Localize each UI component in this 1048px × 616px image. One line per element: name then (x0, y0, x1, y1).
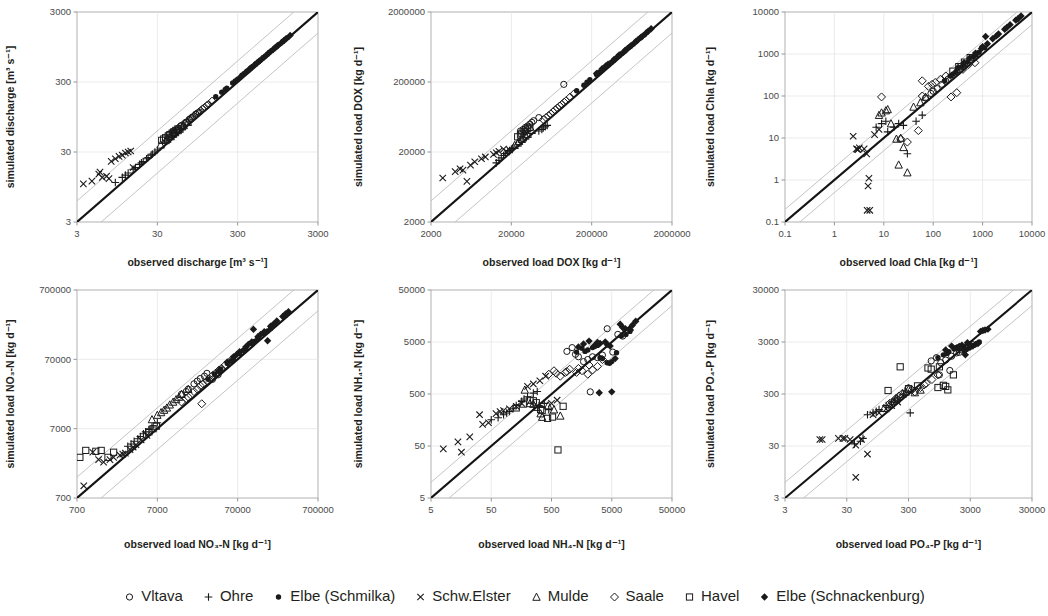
svg-text:observed discharge [m³ s⁻¹]: observed discharge [m³ s⁻¹] (127, 256, 267, 268)
svg-text:3000: 3000 (307, 228, 328, 239)
svg-text:20000: 20000 (498, 228, 524, 239)
svg-text:2000000: 2000000 (654, 228, 691, 239)
panel-po4p: 330300300030000330300300030000observed l… (700, 276, 1048, 554)
svg-text:observed load PO₄-P [kg d⁻¹]: observed load PO₄-P [kg d⁻¹] (836, 538, 982, 550)
panel-no3n: 700700070000700000700700070000700000obse… (0, 276, 340, 554)
svg-text:10: 10 (768, 132, 779, 143)
svg-text:700: 700 (55, 492, 71, 503)
svg-text:500: 500 (409, 388, 425, 399)
svg-text:700: 700 (69, 504, 85, 515)
svg-text:5000: 5000 (404, 336, 425, 347)
svg-text:7000: 7000 (147, 504, 168, 515)
svg-text:30: 30 (841, 504, 852, 515)
svg-text:30: 30 (60, 146, 71, 157)
svg-text:50000: 50000 (659, 504, 685, 515)
panel-discharge: 33030030003303003000observed discharge [… (0, 0, 340, 272)
svg-text:50: 50 (414, 440, 425, 451)
svg-text:20000: 20000 (399, 146, 425, 157)
open-triangle-icon (530, 589, 543, 602)
svg-text:3: 3 (74, 228, 79, 239)
legend-item-label: Ohre (220, 587, 253, 604)
svg-text:simulated load NH₄-N [kg d⁻¹]: simulated load NH₄-N [kg d⁻¹] (352, 320, 364, 469)
svg-text:100: 100 (925, 228, 941, 239)
svg-text:700000: 700000 (39, 284, 71, 295)
svg-text:70000: 70000 (45, 354, 71, 365)
legend-item-label: Havel (701, 587, 739, 604)
svg-text:observed load Chla [kg d⁻¹]: observed load Chla [kg d⁻¹] (840, 256, 978, 268)
panel-nh4n: 550500500050000550500500050000observed l… (348, 276, 694, 554)
svg-text:200000: 200000 (576, 228, 608, 239)
open-circle-icon (123, 589, 136, 602)
panel-dox: 2000200002000002000000200020000200000200… (348, 0, 694, 272)
svg-text:1000: 1000 (972, 228, 993, 239)
svg-text:3: 3 (66, 216, 71, 227)
svg-text:10000: 10000 (1019, 228, 1045, 239)
svg-text:0.1: 0.1 (778, 228, 791, 239)
svg-text:7000: 7000 (50, 423, 71, 434)
svg-text:1: 1 (832, 228, 837, 239)
svg-text:observed load NO₃-N [kg d⁻¹]: observed load NO₃-N [kg d⁻¹] (124, 538, 271, 550)
legend: VltavaOhreElbe (Schmilka)Schw.ElsterMuld… (0, 575, 1048, 616)
legend-item-label: Elbe (Schmilka) (290, 587, 395, 604)
svg-text:3: 3 (782, 504, 787, 515)
svg-text:5000: 5000 (601, 504, 622, 515)
svg-text:50: 50 (486, 504, 497, 515)
legend-item: Mulde (530, 587, 589, 604)
legend-item-label: Mulde (548, 587, 589, 604)
svg-text:30000: 30000 (753, 284, 779, 295)
svg-text:300: 300 (901, 504, 917, 515)
svg-text:30: 30 (152, 228, 163, 239)
legend-item: Elbe (Schnackenburg) (758, 587, 924, 604)
svg-text:3000: 3000 (50, 6, 71, 17)
svg-text:10: 10 (879, 228, 890, 239)
svg-text:3: 3 (774, 492, 779, 503)
legend-item: Schw.Elster (414, 587, 510, 604)
svg-text:2000: 2000 (420, 228, 441, 239)
open-diamond-icon (608, 589, 621, 602)
svg-text:observed load NH₄-N [kg d⁻¹]: observed load NH₄-N [kg d⁻¹] (478, 538, 624, 550)
svg-text:50000: 50000 (399, 284, 425, 295)
svg-text:30: 30 (768, 440, 779, 451)
svg-text:5: 5 (428, 504, 433, 515)
open-square-icon (683, 589, 696, 602)
svg-text:700000: 700000 (302, 504, 334, 515)
filled-circle-icon (272, 589, 285, 602)
legend-item-label: Elbe (Schnackenburg) (776, 587, 924, 604)
svg-text:10000: 10000 (753, 6, 779, 17)
svg-text:3000: 3000 (960, 504, 981, 515)
svg-text:500: 500 (544, 504, 560, 515)
svg-text:1000: 1000 (758, 48, 779, 59)
svg-text:simulated load Chla [kg d⁻¹]: simulated load Chla [kg d⁻¹] (704, 47, 716, 187)
legend-item: Ohre (202, 587, 253, 604)
svg-text:70000: 70000 (224, 504, 250, 515)
legend-item: Elbe (Schmilka) (272, 587, 395, 604)
svg-text:simulated load NO₃-N [kg d⁻¹]: simulated load NO₃-N [kg d⁻¹] (4, 319, 16, 468)
filled-diamond-icon (758, 589, 771, 602)
svg-text:30000: 30000 (1019, 504, 1045, 515)
svg-text:simulated discharge [m³ s⁻¹]: simulated discharge [m³ s⁻¹] (4, 46, 16, 189)
svg-text:0.1: 0.1 (766, 216, 779, 227)
svg-text:300: 300 (763, 388, 779, 399)
panel-chla: 0.11101001000100000.1110100100010000obse… (700, 0, 1048, 272)
legend-item: Vltava (123, 587, 183, 604)
svg-text:5: 5 (420, 492, 425, 503)
svg-text:100: 100 (763, 90, 779, 101)
legend-item-label: Vltava (141, 587, 183, 604)
svg-text:1: 1 (774, 174, 779, 185)
legend-item: Havel (683, 587, 739, 604)
plus-icon (202, 589, 215, 602)
svg-text:simulated load DOX [kg d⁻¹]: simulated load DOX [kg d⁻¹] (352, 47, 364, 187)
figure-root: 33030030003303003000observed discharge [… (0, 0, 1048, 616)
svg-text:2000000: 2000000 (388, 6, 425, 17)
svg-text:300: 300 (230, 228, 246, 239)
legend-item: Saale (608, 587, 664, 604)
svg-text:200000: 200000 (393, 76, 425, 87)
legend-item-label: Saale (626, 587, 664, 604)
svg-text:simulated load PO₄-P [kg d⁻¹]: simulated load PO₄-P [kg d⁻¹] (704, 320, 716, 468)
cross-icon (414, 589, 427, 602)
legend-item-label: Schw.Elster (432, 587, 510, 604)
svg-text:observed load DOX [kg d⁻¹]: observed load DOX [kg d⁻¹] (483, 256, 621, 268)
svg-text:3000: 3000 (758, 336, 779, 347)
svg-text:300: 300 (55, 76, 71, 87)
svg-text:2000: 2000 (404, 216, 425, 227)
